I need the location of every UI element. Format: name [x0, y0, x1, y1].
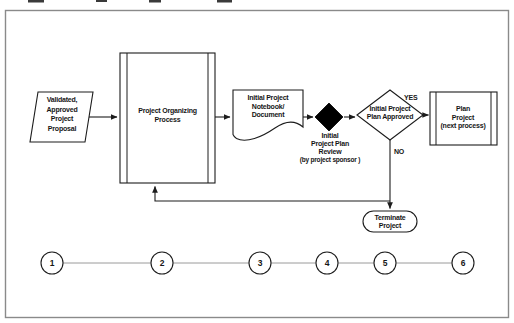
flowchart-drawing	[0, 0, 514, 323]
arrow-feedback-to-organizing	[155, 187, 390, 202]
plan-project-label: Plan Project (next process)	[437, 105, 489, 131]
terminate-label: Terminate Project	[362, 214, 418, 230]
milestone-number-5: 5	[374, 256, 396, 270]
proposal-label: Validated, Approved Project Proposal	[28, 95, 96, 133]
organizing-process-label: Project Organizing Process	[127, 107, 208, 124]
milestone-number-4: 4	[316, 256, 338, 270]
review-milestone-label: Initial Project Plan Review (by project …	[293, 132, 367, 164]
decision-label: Initial Project Plan Approved	[360, 105, 420, 121]
yes-branch-label: YES	[404, 94, 428, 103]
notebook-label: Initial Project Notebook/ Document	[235, 94, 301, 120]
milestone-number-3: 3	[249, 256, 271, 270]
figure-canvas: Validated, Approved Project Proposal Pro…	[0, 0, 514, 323]
cropped-caption-fragments	[28, 0, 232, 3]
milestone-number-1: 1	[41, 256, 63, 270]
milestone-number-2: 2	[151, 256, 173, 270]
review-milestone-diamond	[315, 103, 343, 131]
milestone-number-6: 6	[452, 256, 474, 270]
no-branch-label: NO	[394, 148, 414, 157]
